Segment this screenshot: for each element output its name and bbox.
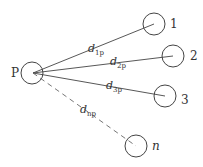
node-n-label: n xyxy=(152,139,160,153)
edge-p-3 xyxy=(33,73,165,96)
node-3-label: 3 xyxy=(181,93,189,107)
node-2-label: 2 xyxy=(190,49,198,63)
distance-diagram: d1pd2pd3pdnpP123n xyxy=(0,0,203,167)
distance-label-np: dnp xyxy=(80,103,97,118)
distance-label-3p: d3p xyxy=(106,79,123,94)
node-p-circle xyxy=(21,62,43,84)
distance-label-2p: d2p xyxy=(110,55,127,70)
edges-group xyxy=(33,24,173,146)
node-p-label: P xyxy=(11,66,19,80)
distance-label-1p: d1p xyxy=(88,42,105,57)
node-1-label: 1 xyxy=(170,17,178,31)
